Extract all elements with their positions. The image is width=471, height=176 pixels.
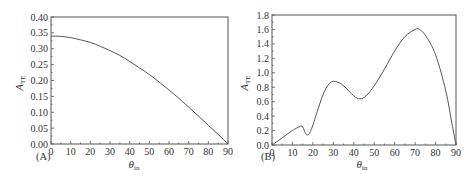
plot-a-curve <box>51 36 228 144</box>
plot-a: 01020304050607080900.000.050.100.150.200… <box>31 12 234 158</box>
plot-b-ytick-label: 1.6 <box>257 24 270 35</box>
plot-a-xtick-label: 60 <box>164 146 174 157</box>
plot-b-xtick-label: 40 <box>349 147 359 158</box>
plot-b-xtick-label: 30 <box>328 147 338 158</box>
plot-a-xtick-label: 40 <box>125 146 135 157</box>
plot-b-ytick-label: 1.8 <box>257 10 270 21</box>
plot-a-ylabel: ATE <box>13 75 27 91</box>
plot-a-ytick-label: 0.05 <box>31 123 49 134</box>
plot-b-xtick-label: 10 <box>287 147 297 158</box>
plot-b-xtick-label: 20 <box>308 147 318 158</box>
plot-b-xtick-label: 50 <box>369 147 379 158</box>
plot-b-frame <box>272 15 456 145</box>
plot-b-ytick-label: 0.8 <box>257 82 270 93</box>
plot-a-xtick-label: 50 <box>144 146 154 157</box>
plot-b-xtick-label: 70 <box>410 147 420 158</box>
plot-a-xtick-label: 80 <box>203 146 213 157</box>
plot-a-xtick-label: 20 <box>85 146 95 157</box>
plot-b-xtick-label: 80 <box>431 147 441 158</box>
plot-a-ytick-label: 0.00 <box>31 139 49 150</box>
plot-a-ytick-label: 0.15 <box>31 91 49 102</box>
plot-b-ytick-label: 0.6 <box>257 96 270 107</box>
plot-b-xtick-label: 90 <box>451 147 461 158</box>
plot-a-xtick-label: 90 <box>223 146 233 157</box>
plot-b: 01020304050607080900.00.20.40.60.81.01.2… <box>257 10 462 159</box>
plot-b-ytick-label: 1.4 <box>257 38 270 49</box>
plot-a-xtick-label: 70 <box>184 146 194 157</box>
plot-b-ytick-label: 0.0 <box>257 140 270 151</box>
chart-figure: 01020304050607080900.000.050.100.150.200… <box>0 0 471 176</box>
plot-b-ytick-label: 1.2 <box>257 53 270 64</box>
plot-b-ytick-label: 0.2 <box>257 125 270 136</box>
plot-a-ytick-label: 0.35 <box>31 27 49 38</box>
plot-a-ytick-label: 0.30 <box>31 43 49 54</box>
plot-b-ytick-label: 0.4 <box>257 111 270 122</box>
plot-b-panel-label: (B) <box>261 151 276 163</box>
plot-a-ytick-label: 0.40 <box>31 12 49 23</box>
plot-a-xtick-label: 30 <box>105 146 115 157</box>
plot-b-xtick-label: 60 <box>390 147 400 158</box>
plot-a-panel-label: (A) <box>36 151 51 163</box>
plot-a-ytick-label: 0.20 <box>31 75 49 86</box>
plot-b-curve <box>272 29 456 145</box>
plot-b-xlabel: θin <box>357 158 368 172</box>
plot-a-ytick-label: 0.25 <box>31 59 49 70</box>
plot-b-ytick-label: 1.0 <box>257 67 270 78</box>
plot-a-xlabel: θin <box>129 158 140 172</box>
plot-a-ytick-label: 0.10 <box>31 107 49 118</box>
plot-b-ylabel: ATE <box>238 75 252 91</box>
plot-a-frame <box>51 17 228 144</box>
plot-a-xtick-label: 10 <box>66 146 76 157</box>
